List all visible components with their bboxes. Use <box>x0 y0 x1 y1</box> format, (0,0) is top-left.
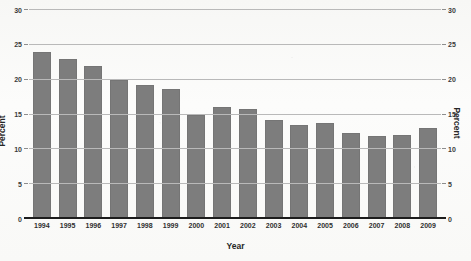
bar <box>84 66 102 219</box>
bar-column <box>287 10 313 219</box>
bar <box>342 133 360 219</box>
y-axis-tick-label-left: 10 <box>14 146 22 153</box>
bar-column <box>55 10 81 219</box>
y-axis-tick-right <box>442 183 446 184</box>
x-axis-tick-label: 2007 <box>364 222 390 229</box>
bar <box>316 123 334 219</box>
bar <box>213 107 231 219</box>
bar-series <box>29 10 441 219</box>
y-axis-tick-label-left: 25 <box>14 41 22 48</box>
x-axis-tick-label: 2004 <box>287 222 313 229</box>
bar-column <box>81 10 107 219</box>
y-axis-tick-left <box>24 114 28 115</box>
bar-column <box>158 10 184 219</box>
bar <box>162 89 180 219</box>
y-axis-tick-label-left: 20 <box>14 76 22 83</box>
y-axis-tick-label-right: 10 <box>448 146 456 153</box>
y-axis-tick-label-right: 0 <box>448 216 452 223</box>
x-axis-tick-label: 1996 <box>81 222 107 229</box>
bar-column <box>312 10 338 219</box>
y-axis-tick-left <box>24 79 28 80</box>
bar <box>290 125 308 219</box>
y-axis-tick-right <box>442 44 446 45</box>
y-axis-tick-left <box>24 9 28 10</box>
bar <box>239 109 257 219</box>
y-axis-tick-right <box>442 79 446 80</box>
bar <box>59 59 77 219</box>
gridline <box>29 114 441 115</box>
gridline <box>29 44 441 45</box>
y-axis-tick-label-left: 30 <box>14 7 22 14</box>
y-axis-tick-right <box>442 148 446 149</box>
x-axis-tick-label: 2002 <box>235 222 261 229</box>
bar-column <box>184 10 210 219</box>
chart-title-clipped <box>0 0 471 1</box>
x-axis-tick-label: 1998 <box>132 222 158 229</box>
bar-column <box>132 10 158 219</box>
bar-column <box>364 10 390 219</box>
gridline <box>29 148 441 149</box>
x-axis-tick-label: 2005 <box>312 222 338 229</box>
bar-column <box>209 10 235 219</box>
y-axis-tick-right <box>442 217 446 219</box>
bar-column <box>29 10 55 219</box>
x-axis-title: Year <box>0 241 471 251</box>
x-axis-tick-label: 1995 <box>55 222 81 229</box>
x-axis-tick-label: 1999 <box>158 222 184 229</box>
y-axis-tick-right <box>442 9 446 10</box>
bar <box>419 128 437 219</box>
bar <box>187 115 205 220</box>
plot-area: 005510101515202025253030 <box>29 10 441 219</box>
gridline <box>29 9 441 10</box>
y-axis-tick-label-left: 0 <box>18 216 22 223</box>
y-axis-tick-left <box>24 183 28 184</box>
bar-column <box>261 10 287 219</box>
y-axis-tick-label-right: 20 <box>448 76 456 83</box>
bar <box>33 52 51 219</box>
x-axis-tick-label: 1994 <box>29 222 55 229</box>
y-axis-tick-left <box>24 148 28 149</box>
y-axis-tick-left <box>24 44 28 45</box>
y-axis-tick-label-right: 30 <box>448 7 456 14</box>
y-axis-tick-right <box>442 114 446 115</box>
bar-column <box>235 10 261 219</box>
bar-column <box>390 10 416 219</box>
bar <box>136 85 154 219</box>
y-axis-tick-label-right: 5 <box>448 181 452 188</box>
x-axis-baseline <box>26 217 444 219</box>
y-axis-tick-left <box>24 217 28 219</box>
x-axis-tick-label: 2006 <box>338 222 364 229</box>
x-axis-tick-label: 1997 <box>106 222 132 229</box>
gridline <box>29 79 441 80</box>
y-axis-tick-label-left: 15 <box>14 111 22 118</box>
x-axis-tick-label: 2008 <box>390 222 416 229</box>
x-axis-tick-label: 2000 <box>184 222 210 229</box>
bar-column <box>338 10 364 219</box>
bar-chart: 005510101515202025253030 199419951996199… <box>0 0 471 261</box>
y-axis-tick-label-right: 25 <box>448 41 456 48</box>
x-axis-tick-label: 2001 <box>209 222 235 229</box>
y-axis-title-right: Percent <box>452 107 461 138</box>
x-axis-tick-label: 2009 <box>415 222 441 229</box>
y-axis-tick-label-left: 5 <box>18 181 22 188</box>
x-axis-tick-label: 2003 <box>261 222 287 229</box>
bar-column <box>415 10 441 219</box>
x-axis-tick-labels: 1994199519961997199819992000200120022003… <box>29 222 441 229</box>
gridline <box>29 183 441 184</box>
bar-column <box>106 10 132 219</box>
y-axis-title-left: Percent <box>0 115 7 146</box>
bar <box>265 120 283 219</box>
